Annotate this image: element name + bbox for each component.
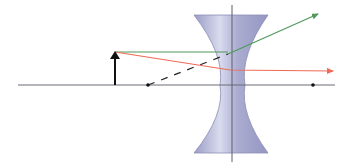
- lens-ray-diagram: [0, 0, 349, 168]
- focal-point-left: [146, 83, 150, 87]
- diverging-lens: [194, 15, 268, 153]
- focal-point-right: [311, 83, 315, 87]
